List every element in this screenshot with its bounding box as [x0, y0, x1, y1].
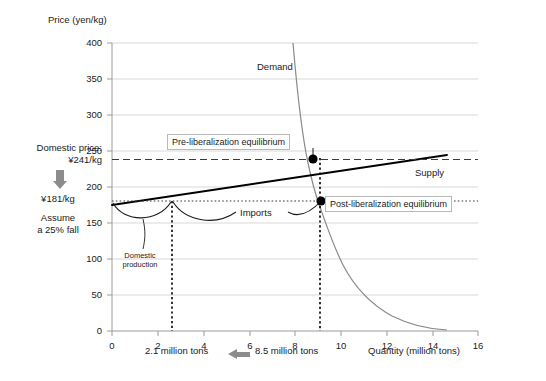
- y-axis-title: Price (yen/kg): [48, 14, 107, 25]
- assume-fall-annotation: Assume a 25% fall: [14, 212, 102, 236]
- domestic-price-label-text: Domestic price:: [14, 142, 102, 154]
- down-arrow-icon: [53, 170, 67, 189]
- left-arrow-icon: [228, 349, 250, 358]
- y-tick-label-100: 100: [74, 253, 102, 264]
- y-tick-label-300: 300: [74, 109, 102, 120]
- y-tick-label-50: 50: [74, 289, 102, 300]
- domestic-price-annotation: Domestic price: ¥241/kg: [14, 142, 102, 166]
- domestic-production-line-2: production: [117, 260, 163, 269]
- domestic-production-line-1: Domestic: [117, 251, 163, 260]
- down-arrow-head: [53, 181, 67, 189]
- y-tick-label-400: 400: [74, 37, 102, 48]
- left-arrow-head: [228, 349, 237, 359]
- x-tick-label-16: 16: [468, 340, 488, 351]
- imports-label: Imports: [240, 207, 272, 218]
- left-arrow-shaft: [237, 352, 250, 357]
- quantity-total-label: 8.5 million tons: [255, 345, 318, 356]
- y-tick-label-350: 350: [74, 73, 102, 84]
- assume-line-1: Assume: [14, 212, 102, 224]
- x-tick-label-10: 10: [331, 340, 351, 351]
- x-tick-marks: [112, 331, 478, 336]
- x-tick-label-0: 0: [102, 340, 122, 351]
- imports-brace-left: [173, 202, 236, 220]
- y-tick-label-0: 0: [74, 325, 102, 336]
- pre-liberalization-equilibrium-callout: Pre-liberalization equilibrium: [167, 134, 290, 150]
- y-tick-label-200: 200: [74, 181, 102, 192]
- down-arrow-shaft: [56, 170, 64, 181]
- domestic-price-value-text: ¥241/kg: [14, 154, 102, 166]
- post-liberalization-equilibrium-callout: Post-liberalization equilibrium: [325, 196, 452, 212]
- assume-line-2: a 25% fall: [14, 224, 102, 236]
- pre-equilibrium-marker: [308, 154, 317, 163]
- domestic-production-label: Domestic production: [117, 251, 163, 269]
- quantity-domestic-label: 2.1 million tons: [145, 345, 208, 356]
- y-tick-marks: [107, 43, 112, 331]
- x-axis-title: Quantity (million tons): [368, 345, 460, 356]
- supply-curve-label: Supply: [415, 167, 444, 178]
- chart-canvas: Price (yen/kg) 400 350 300 250 200 150 1…: [0, 0, 546, 381]
- demand-curve-label: Demand: [257, 61, 293, 72]
- post-price-value-text: ¥181/kg: [14, 193, 102, 204]
